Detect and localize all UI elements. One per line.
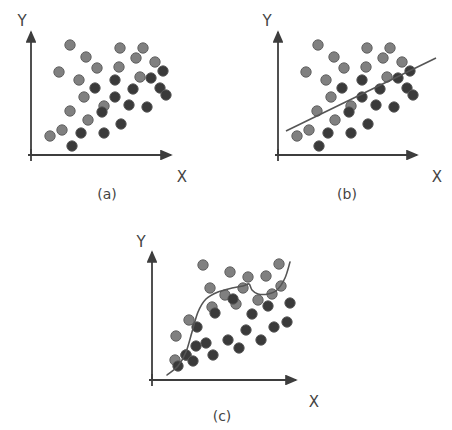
data-point <box>363 119 373 129</box>
data-point <box>208 350 218 360</box>
data-point <box>146 73 156 83</box>
data-point <box>285 298 295 308</box>
data-point <box>210 308 220 318</box>
data-point <box>385 43 395 53</box>
data-point <box>263 301 273 311</box>
panel-c-y-axis-label: Y <box>135 233 146 251</box>
data-point <box>269 322 279 332</box>
data-point <box>65 40 75 50</box>
figure-background <box>0 0 452 430</box>
data-point <box>142 102 152 112</box>
panel-a-y-axis-label: Y <box>16 12 27 30</box>
panel-a-x-axis-label: X <box>177 168 187 186</box>
data-point <box>191 341 201 351</box>
data-point <box>114 62 124 72</box>
data-point <box>171 331 181 341</box>
data-point <box>54 67 64 77</box>
data-point <box>138 43 148 53</box>
data-point <box>79 92 89 102</box>
scatterplot-figure: Y X (a) Y X (b) Y X (c) <box>0 0 452 430</box>
data-point <box>83 115 93 125</box>
data-point <box>304 125 314 135</box>
data-point <box>346 128 356 138</box>
panel-b-y-axis-label: Y <box>261 12 272 30</box>
data-point <box>378 53 388 63</box>
data-point <box>150 57 160 67</box>
data-point <box>323 128 333 138</box>
data-point <box>389 102 399 112</box>
data-point <box>357 75 367 85</box>
data-point <box>223 335 233 345</box>
data-point <box>362 43 372 53</box>
data-point <box>337 83 347 93</box>
data-point <box>124 100 134 110</box>
panel-c-caption: (c) <box>213 408 232 424</box>
data-point <box>90 83 100 93</box>
data-point <box>131 53 141 63</box>
data-point <box>116 119 126 129</box>
data-point <box>97 107 107 117</box>
data-point <box>301 67 311 77</box>
data-point <box>110 92 120 102</box>
data-point <box>243 272 253 282</box>
data-point <box>65 106 75 116</box>
data-point <box>228 294 238 304</box>
data-point <box>57 125 67 135</box>
data-point <box>234 343 244 353</box>
panel-b-caption: (b) <box>337 186 357 202</box>
data-point <box>161 90 171 100</box>
data-point <box>45 131 55 141</box>
data-point <box>201 338 211 348</box>
panel-c-x-axis-label: X <box>309 393 319 411</box>
data-point <box>282 317 292 327</box>
data-point <box>408 90 418 100</box>
data-point <box>92 63 102 73</box>
data-point <box>361 62 371 72</box>
data-point <box>205 283 215 293</box>
data-point <box>326 92 336 102</box>
panel-b-x-axis-label: X <box>432 168 442 186</box>
data-point <box>225 267 235 277</box>
data-point <box>241 325 251 335</box>
data-point <box>67 141 77 151</box>
data-point <box>198 260 208 270</box>
data-point <box>371 100 381 110</box>
data-point <box>115 43 125 53</box>
data-point <box>330 115 340 125</box>
panel-a-caption: (a) <box>97 186 117 202</box>
data-point <box>314 141 324 151</box>
data-point <box>261 271 271 281</box>
data-point <box>339 63 349 73</box>
data-point <box>313 40 323 50</box>
data-point <box>329 52 339 62</box>
data-point <box>99 128 109 138</box>
data-point <box>321 75 331 85</box>
data-point <box>81 52 91 62</box>
data-point <box>397 57 407 67</box>
data-point <box>158 66 168 76</box>
data-point <box>253 295 263 305</box>
data-point <box>274 259 284 269</box>
data-point <box>188 356 198 366</box>
data-point <box>128 84 138 94</box>
data-point <box>256 335 266 345</box>
data-point <box>76 128 86 138</box>
data-point <box>110 75 120 85</box>
data-point <box>135 72 145 82</box>
data-point <box>74 75 84 85</box>
data-point <box>292 131 302 141</box>
data-point <box>344 107 354 117</box>
data-point <box>247 309 257 319</box>
